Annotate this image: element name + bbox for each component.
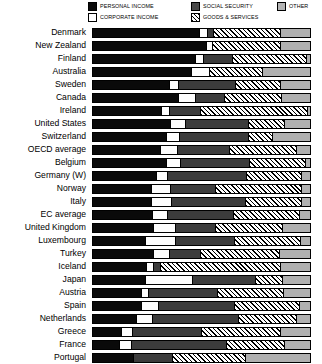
segment-goods-services <box>229 146 296 154</box>
stacked-bar <box>92 67 311 77</box>
country-label: Sweden <box>0 78 86 91</box>
stacked-bar <box>92 41 311 51</box>
segment-other <box>272 133 310 141</box>
country-label: Belgium <box>0 156 86 169</box>
segment-goods-services <box>201 328 279 336</box>
segment-personal-income <box>93 29 199 37</box>
segment-goods-services <box>234 302 299 310</box>
chart-legend: PERSONAL INCOME SOCIAL SECURITY OTHER CO… <box>88 1 322 23</box>
segment-corporate-income <box>141 302 158 310</box>
chart-row: Germany (W) <box>0 169 322 182</box>
stacked-bar <box>92 54 311 64</box>
country-label: Portugal <box>0 351 86 364</box>
segment-corporate-income <box>119 341 131 349</box>
segment-social-security <box>203 55 232 63</box>
chart-row: Australia <box>0 65 322 78</box>
segment-personal-income <box>93 198 151 206</box>
segment-corporate-income <box>199 29 207 37</box>
segment-goods-services <box>246 172 301 180</box>
chart-row: Switzerland <box>0 130 322 143</box>
chart-row: Finland <box>0 52 322 65</box>
country-label: Finland <box>0 52 86 65</box>
stacked-bar <box>92 80 311 90</box>
segment-corporate-income <box>151 185 171 193</box>
country-label: Luxembourg <box>0 234 86 247</box>
country-label: Netherlands <box>0 312 86 325</box>
stacked-bar <box>92 327 311 337</box>
segment-personal-income <box>93 42 206 50</box>
segment-personal-income <box>93 68 191 76</box>
segment-other <box>300 237 310 245</box>
segment-corporate-income <box>152 211 167 219</box>
segment-personal-income <box>93 302 141 310</box>
segment-other <box>283 289 310 297</box>
legend-item-goods-services: GOODS & SERVICES <box>191 12 258 22</box>
chart-row: Turkey <box>0 247 322 260</box>
segment-social-security <box>185 120 248 128</box>
stacked-bar <box>92 223 311 233</box>
segment-other <box>301 172 310 180</box>
segment-personal-income <box>93 263 146 271</box>
stacked-bar <box>92 197 311 207</box>
segment-corporate-income <box>191 68 209 76</box>
segment-personal-income <box>93 211 152 219</box>
segment-personal-income <box>93 354 133 362</box>
stacked-bar <box>92 340 311 350</box>
segment-other <box>279 250 310 258</box>
segment-goods-services <box>160 263 279 271</box>
segment-corporate-income <box>153 224 176 232</box>
chart-row: Greece <box>0 325 322 338</box>
country-label: Denmark <box>0 26 86 39</box>
segment-other <box>280 42 310 50</box>
segment-other <box>282 224 310 232</box>
stacked-bar <box>92 28 311 38</box>
segment-social-security <box>169 107 200 115</box>
segment-personal-income <box>93 276 145 284</box>
segment-personal-income <box>93 289 141 297</box>
legend-item-personal-income: PERSONAL INCOME <box>88 1 154 11</box>
country-label: Germany (W) <box>0 169 86 182</box>
stacked-bar <box>92 249 311 259</box>
segment-goods-services <box>238 315 296 323</box>
country-label: New Zealand <box>0 39 86 52</box>
country-label: Norway <box>0 182 86 195</box>
stacked-bar <box>92 236 311 246</box>
legend-label-other: OTHER <box>289 2 308 11</box>
segment-social-security <box>195 94 224 102</box>
segment-social-security <box>175 237 234 245</box>
chart-row: Portugal <box>0 351 322 364</box>
chart-row: Ireland <box>0 104 322 117</box>
legend-label-goods-services: GOODS & SERVICES <box>203 13 258 22</box>
segment-goods-services <box>226 341 284 349</box>
segment-other <box>305 159 310 167</box>
segment-corporate-income <box>145 237 175 245</box>
segment-other <box>280 328 310 336</box>
segment-goods-services <box>233 211 299 219</box>
segment-personal-income <box>93 120 170 128</box>
segment-other <box>282 276 310 284</box>
segment-personal-income <box>93 133 166 141</box>
segment-social-security <box>133 354 172 362</box>
segment-social-security <box>180 159 249 167</box>
stacked-bar <box>92 210 311 220</box>
segment-corporate-income <box>178 94 195 102</box>
segment-corporate-income <box>170 120 185 128</box>
segment-goods-services <box>249 159 304 167</box>
stacked-bar <box>92 119 311 129</box>
segment-goods-services <box>217 289 283 297</box>
legend-item-social-security: SOCIAL SECURITY <box>191 1 253 11</box>
country-label: Switzerland <box>0 130 86 143</box>
country-label: France <box>0 338 86 351</box>
social-security-swatch-icon <box>191 2 200 11</box>
segment-other <box>301 198 310 206</box>
segment-personal-income <box>93 224 153 232</box>
country-label: OECD average <box>0 143 86 156</box>
segment-other <box>299 211 310 219</box>
stacked-bar <box>92 301 311 311</box>
country-label: Ireland <box>0 104 86 117</box>
segment-corporate-income <box>153 250 169 258</box>
segment-corporate-income <box>141 289 149 297</box>
segment-personal-income <box>93 237 145 245</box>
segment-corporate-income <box>136 315 151 323</box>
chart-row: Norway <box>0 182 322 195</box>
